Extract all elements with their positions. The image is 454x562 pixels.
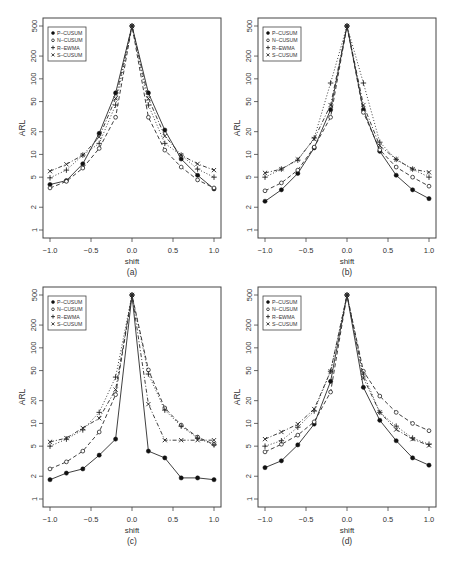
y-axis: 125102050100200500 <box>30 289 44 501</box>
filled-circle-marker-icon <box>163 456 167 460</box>
y-axis-label: ARL <box>232 388 242 405</box>
open-circle-marker-icon <box>378 148 382 152</box>
legend-label: N–CUSUM <box>57 306 83 312</box>
x-tick-label: 0.0 <box>342 246 352 255</box>
legend-label: S–CUSUM <box>57 321 82 327</box>
y-tick-label: 500 <box>30 20 39 33</box>
y-axis: 125102050100200500 <box>245 289 259 501</box>
legend-item-n-cusum: N–CUSUM <box>267 37 298 43</box>
open-circle-marker-icon <box>378 394 382 398</box>
legend: P–CUSUMN–CUSUMR–EWMAS–CUSUM <box>48 296 86 330</box>
legend-label: N–CUSUM <box>272 306 298 312</box>
y-tick-label: 20 <box>30 127 39 135</box>
legend: P–CUSUMN–CUSUMR–EWMAS–CUSUM <box>48 27 86 61</box>
x-axis-label: shift <box>340 257 355 266</box>
cross-marker-icon <box>263 437 267 441</box>
y-axis-label: ARL <box>232 119 242 136</box>
open-circle-marker-icon <box>147 115 151 119</box>
legend-label: N–CUSUM <box>57 37 83 43</box>
y-tick-label: 10 <box>245 150 254 158</box>
filled-circle-marker-icon <box>114 437 118 441</box>
open-circle-marker-icon <box>394 165 398 169</box>
plus-marker-icon <box>211 174 216 179</box>
cross-marker-icon <box>97 416 101 420</box>
open-circle-marker-icon <box>52 39 55 42</box>
panel-label: (b) <box>342 267 353 277</box>
y-tick-label: 2 <box>245 474 254 478</box>
filled-circle-marker-icon <box>48 478 52 482</box>
x-tick-label: −0.5 <box>299 246 314 255</box>
y-tick-label: 500 <box>245 289 254 302</box>
y-tick-label: 1 <box>245 228 254 232</box>
legend-label: R–EWMA <box>272 45 295 51</box>
open-circle-marker-icon <box>362 110 366 114</box>
open-circle-marker-icon <box>312 145 316 149</box>
chart-panel-b: 125102050100200500ARL−1.0−0.50.00.51.0sh… <box>232 18 436 277</box>
open-circle-marker-icon <box>97 430 101 434</box>
cross-marker-icon <box>48 169 52 173</box>
y-tick-label: 5 <box>245 175 254 179</box>
y-tick-label: 1 <box>30 228 39 232</box>
filled-circle-marker-icon <box>378 418 382 422</box>
y-tick-label: 20 <box>245 396 254 404</box>
x-tick-label: 0.5 <box>383 515 393 524</box>
cross-marker-icon <box>64 162 68 166</box>
legend-label: S–CUSUM <box>272 52 297 58</box>
cross-marker-icon <box>114 388 118 392</box>
y-tick-label: 2 <box>30 474 39 478</box>
plus-marker-icon <box>146 371 151 376</box>
legend-label: S–CUSUM <box>272 321 297 327</box>
x-tick-label: 1.0 <box>209 246 219 255</box>
y-axis: 125102050100200500 <box>245 20 259 232</box>
legend-item-n-cusum: N–CUSUM <box>52 306 83 312</box>
y-tick-label: 500 <box>30 289 39 302</box>
plus-marker-icon <box>113 102 118 107</box>
plus-marker-icon <box>211 442 216 447</box>
legend-label: P–CUSUM <box>57 299 82 305</box>
y-tick-label: 20 <box>245 127 254 135</box>
y-tick-label: 10 <box>30 150 39 158</box>
x-axis-label: shift <box>340 526 355 535</box>
y-axis-label: ARL <box>17 388 27 405</box>
cross-marker-icon <box>212 168 216 172</box>
open-circle-marker-icon <box>411 422 415 426</box>
plus-marker-icon <box>262 174 267 179</box>
y-tick-label: 50 <box>245 366 254 374</box>
x-tick-label: 0.5 <box>168 246 178 255</box>
open-circle-marker-icon <box>179 165 183 169</box>
y-tick-label: 50 <box>30 97 39 105</box>
open-circle-marker-icon <box>48 467 52 471</box>
open-circle-marker-icon <box>427 184 431 188</box>
open-circle-marker-icon <box>65 179 69 183</box>
y-tick-label: 1 <box>245 497 254 501</box>
x-tick-label: 1.0 <box>424 246 434 255</box>
open-circle-marker-icon <box>296 168 300 172</box>
x-tick-label: 1.0 <box>424 515 434 524</box>
open-circle-marker-icon <box>212 186 216 190</box>
x-axis: −1.0−0.50.00.51.0 <box>258 238 435 255</box>
x-tick-label: 1.0 <box>209 515 219 524</box>
open-circle-marker-icon <box>329 115 333 119</box>
open-circle-marker-icon <box>329 390 333 394</box>
open-circle-marker-icon <box>280 181 284 185</box>
filled-circle-marker-icon <box>52 301 55 304</box>
x-tick-label: −1.0 <box>43 515 58 524</box>
open-circle-marker-icon <box>267 39 270 42</box>
open-circle-marker-icon <box>263 450 267 454</box>
legend-label: R–EWMA <box>272 314 295 320</box>
chart-panel-d: 125102050100200500ARL−1.0−0.50.00.51.0sh… <box>232 287 436 546</box>
y-tick-label: 200 <box>245 319 254 332</box>
x-tick-label: 0.0 <box>342 515 352 524</box>
filled-circle-marker-icon <box>163 128 167 132</box>
legend-item-s-cusum: S–CUSUM <box>52 52 83 58</box>
plus-marker-icon <box>279 438 284 443</box>
open-circle-marker-icon <box>196 178 200 182</box>
y-tick-label: 200 <box>30 50 39 63</box>
filled-circle-marker-icon <box>267 301 270 304</box>
cross-marker-icon <box>196 162 200 166</box>
y-tick-label: 100 <box>245 73 254 86</box>
filled-circle-marker-icon <box>81 467 85 471</box>
y-tick-label: 100 <box>30 73 39 86</box>
panel-label: (d) <box>342 536 353 546</box>
legend-label: R–EWMA <box>57 45 80 51</box>
